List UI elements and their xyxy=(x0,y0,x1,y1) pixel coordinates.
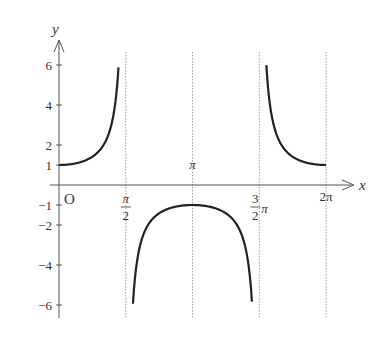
y-tick-label: −2 xyxy=(38,218,52,233)
curve-branch-1 xyxy=(59,67,118,165)
x-tick-label-suffix: π xyxy=(261,201,268,216)
x-axis-label: x xyxy=(358,177,366,193)
y-tick-label: −4 xyxy=(38,258,52,273)
y-tick-label: −6 xyxy=(38,298,52,313)
x-tick-label-numerator: π xyxy=(122,191,129,206)
x-tick-label: π xyxy=(189,157,196,172)
x-tick-label-numerator: 3 xyxy=(252,191,259,206)
y-tick-label: 2 xyxy=(46,138,53,153)
x-tick-label-denominator: 2 xyxy=(123,208,130,223)
y-tick-label: 6 xyxy=(46,58,53,73)
x-tick-label-denominator: 2 xyxy=(252,208,259,223)
x-tick-label: 2π xyxy=(319,189,333,204)
axes: x y O xyxy=(50,21,366,318)
origin-label: O xyxy=(64,191,75,207)
y-tick-label: 1 xyxy=(46,158,53,173)
y-tick-label: 4 xyxy=(46,98,53,113)
y-axis-label: y xyxy=(50,21,59,37)
y-tick-label: −1 xyxy=(38,198,52,213)
secant-chart: x y O 6421−1−2−4−6 π2π32π2π xyxy=(0,0,386,341)
curve-branch-3 xyxy=(266,65,326,165)
